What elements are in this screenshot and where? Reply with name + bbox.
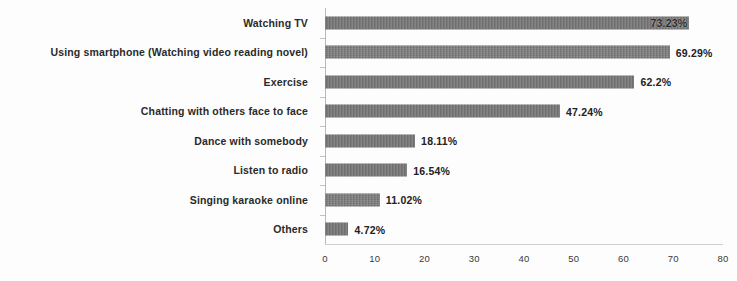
bar-row: 18.11% [325, 134, 415, 147]
x-axis-tick-labels: 01020304050607080 [325, 244, 729, 270]
y-axis-tick [320, 126, 325, 127]
bar-row: 16.54% [325, 164, 407, 177]
category-label: Watching TV [0, 17, 308, 29]
bar [325, 193, 380, 206]
y-axis-tick [320, 97, 325, 98]
bar-row: 4.72% [325, 223, 348, 236]
bar [325, 16, 689, 29]
bar [325, 105, 560, 118]
x-axis-tick-label: 50 [568, 253, 579, 264]
category-label: Others [0, 223, 308, 235]
y-axis-tick [320, 215, 325, 216]
x-axis-tick-label: 60 [618, 253, 629, 264]
x-axis-tick-label: 40 [519, 253, 530, 264]
x-axis-tick-label: 20 [419, 253, 430, 264]
bar-row: 62.2% [325, 75, 634, 88]
category-label: Exercise [0, 76, 308, 88]
y-axis-tick [320, 38, 325, 39]
bar-row: 47.24% [325, 105, 560, 118]
category-axis-labels: Watching TVUsing smartphone (Watching vi… [0, 8, 308, 244]
bar-value-label: 47.24% [566, 105, 603, 117]
y-axis-tick [320, 67, 325, 68]
category-label: Listen to radio [0, 164, 308, 176]
bar-row: 73.23% [325, 16, 689, 29]
x-axis-tick-label: 0 [322, 253, 327, 264]
bar [325, 75, 634, 88]
category-label: Singing karaoke online [0, 194, 308, 206]
plot-area: 73.23%69.29%62.2%47.24%18.11%16.54%11.02… [325, 8, 729, 244]
category-label: Using smartphone (Watching video reading… [0, 46, 308, 58]
bar-value-label: 62.2% [640, 76, 671, 88]
category-label: Dance with somebody [0, 135, 308, 147]
y-axis-line [325, 8, 326, 244]
x-axis-tick-label: 80 [718, 253, 729, 264]
bar-value-label: 69.29% [676, 46, 713, 58]
x-axis-tick-label: 10 [369, 253, 380, 264]
bar-value-label: 11.02% [386, 194, 422, 206]
bar-row: 11.02% [325, 193, 380, 206]
category-label: Chatting with others face to face [0, 105, 308, 117]
bar-value-label: 4.72% [354, 223, 385, 235]
y-axis-tick [320, 156, 325, 157]
x-axis-tick-label: 70 [668, 253, 679, 264]
bar [325, 46, 670, 59]
x-axis-tick-label: 30 [469, 253, 480, 264]
bar-row: 69.29% [325, 46, 670, 59]
y-axis-tick [320, 185, 325, 186]
bar [325, 134, 415, 147]
bar-value-label: 73.23% [651, 17, 688, 29]
bar [325, 164, 407, 177]
bar-value-label: 18.11% [421, 135, 457, 147]
bar-chart: Watching TVUsing smartphone (Watching vi… [0, 0, 737, 281]
bar [325, 223, 348, 236]
bar-value-label: 16.54% [413, 164, 450, 176]
